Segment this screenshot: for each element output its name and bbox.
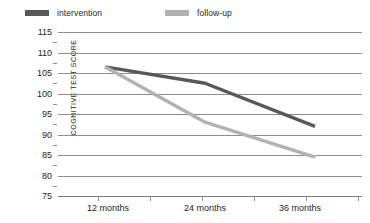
gridline: [58, 73, 362, 74]
legend-swatch-follow-up: [165, 10, 189, 16]
y-axis-tick-label: 85: [42, 150, 52, 160]
y-axis-tick-label: 115: [38, 27, 52, 37]
gridline: [58, 155, 362, 156]
y-axis-tick-label: 90: [42, 130, 52, 140]
gridline: [58, 94, 362, 95]
gridline: [58, 114, 362, 115]
y-axis-minor-tick: [53, 124, 57, 125]
y-axis-minor-tick: [53, 145, 57, 146]
legend-label-intervention: intervention: [57, 8, 102, 18]
cognitive-test-score-line-chart: intervention follow-up COGNITIVE TEST SC…: [0, 0, 370, 223]
y-axis-minor-tick: [53, 83, 57, 84]
x-axis-tick: [254, 196, 255, 201]
x-axis-tick-label: 24 months: [184, 203, 226, 213]
gridline: [58, 32, 362, 33]
plot-area: COGNITIVE TEST SCORE 1151101051009590858…: [58, 32, 362, 196]
legend-item-intervention: intervention: [25, 8, 102, 18]
y-axis-minor-tick: [53, 63, 57, 64]
x-axis-tick: [358, 196, 359, 201]
y-axis-minor-tick: [53, 104, 57, 105]
chart-legend: intervention follow-up: [0, 0, 370, 26]
x-axis-tick: [202, 196, 203, 201]
x-axis-tick: [150, 196, 151, 201]
y-axis-tick-label: 100: [37, 89, 52, 99]
y-axis-title: COGNITIVE TEST SCORE: [70, 28, 77, 148]
gridline: [58, 176, 362, 177]
x-axis-tick: [98, 196, 99, 201]
y-axis-tick-label: 110: [38, 48, 52, 58]
y-axis-minor-tick: [53, 42, 57, 43]
x-axis-tick-label: 36 months: [279, 203, 321, 213]
y-axis-tick-label: 95: [42, 109, 52, 119]
gridline: [58, 135, 362, 136]
y-axis-minor-tick: [53, 186, 57, 187]
y-axis-tick-label: 105: [37, 68, 52, 78]
x-axis-line: [58, 196, 362, 197]
y-axis-tick-label: 75: [42, 191, 52, 201]
legend-item-follow-up: follow-up: [165, 8, 232, 18]
y-axis-tick-label: 80: [42, 171, 52, 181]
y-axis-minor-tick: [53, 165, 57, 166]
legend-swatch-intervention: [25, 10, 49, 16]
x-axis-tick-label: 12 months: [87, 203, 129, 213]
legend-label-follow-up: follow-up: [197, 8, 232, 18]
gridline: [58, 53, 362, 54]
x-axis-tick: [306, 196, 307, 201]
